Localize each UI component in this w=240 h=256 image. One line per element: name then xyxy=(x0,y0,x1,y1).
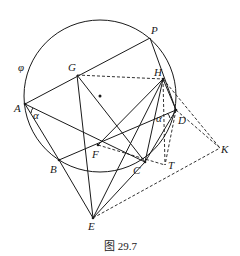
label-T: T xyxy=(168,159,175,171)
label-F: F xyxy=(91,148,99,160)
label-E: E xyxy=(87,220,95,232)
angle-arc-D xyxy=(167,113,170,118)
label-alpha-A: α xyxy=(33,109,39,121)
label-D: D xyxy=(177,114,186,126)
label-G: G xyxy=(68,61,76,73)
label-H: H xyxy=(153,66,163,78)
label-C: C xyxy=(133,164,141,176)
label-B: B xyxy=(50,163,57,175)
geometry-figure: φ P G H A α α D F B C T K E 图 29.7 xyxy=(0,0,240,256)
label-phi: φ xyxy=(18,61,24,73)
label-A: A xyxy=(13,102,21,114)
label-alpha-D: α xyxy=(156,112,162,124)
label-P: P xyxy=(150,24,158,36)
figure-caption: 图 29.7 xyxy=(104,240,138,252)
solid-segments xyxy=(25,38,176,218)
circle-center-dot xyxy=(99,95,102,98)
label-K: K xyxy=(220,143,229,155)
